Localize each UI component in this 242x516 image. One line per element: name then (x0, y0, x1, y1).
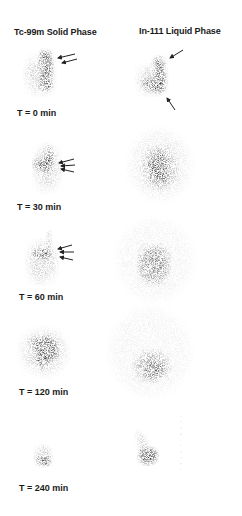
liquid-image-t0 (138, 58, 166, 94)
arrows-solid-t30 (59, 159, 75, 172)
solid-image-t60 (28, 232, 56, 282)
arrows-solid-t60 (58, 245, 74, 260)
solid-image-t120 (22, 330, 66, 374)
arrows-solid-t0 (58, 54, 77, 63)
time-label-t60: T = 60 min (19, 292, 63, 302)
time-label-t0: T = 0 min (17, 108, 56, 118)
liquid-image-t120 (110, 308, 190, 396)
liquid-image-t240 (136, 415, 181, 470)
scintigraphy-images (0, 0, 242, 516)
solid-image-t240 (35, 446, 51, 466)
liquid-image-t30 (130, 131, 190, 199)
time-label-t30: T = 30 min (17, 202, 61, 212)
arrows-liquid-t0 (167, 50, 183, 110)
time-label-t120: T = 120 min (19, 387, 68, 397)
time-label-t240: T = 240 min (19, 483, 68, 493)
solid-image-t0 (26, 52, 54, 93)
solid-image-t30 (34, 146, 59, 190)
liquid-image-t60 (117, 220, 193, 300)
